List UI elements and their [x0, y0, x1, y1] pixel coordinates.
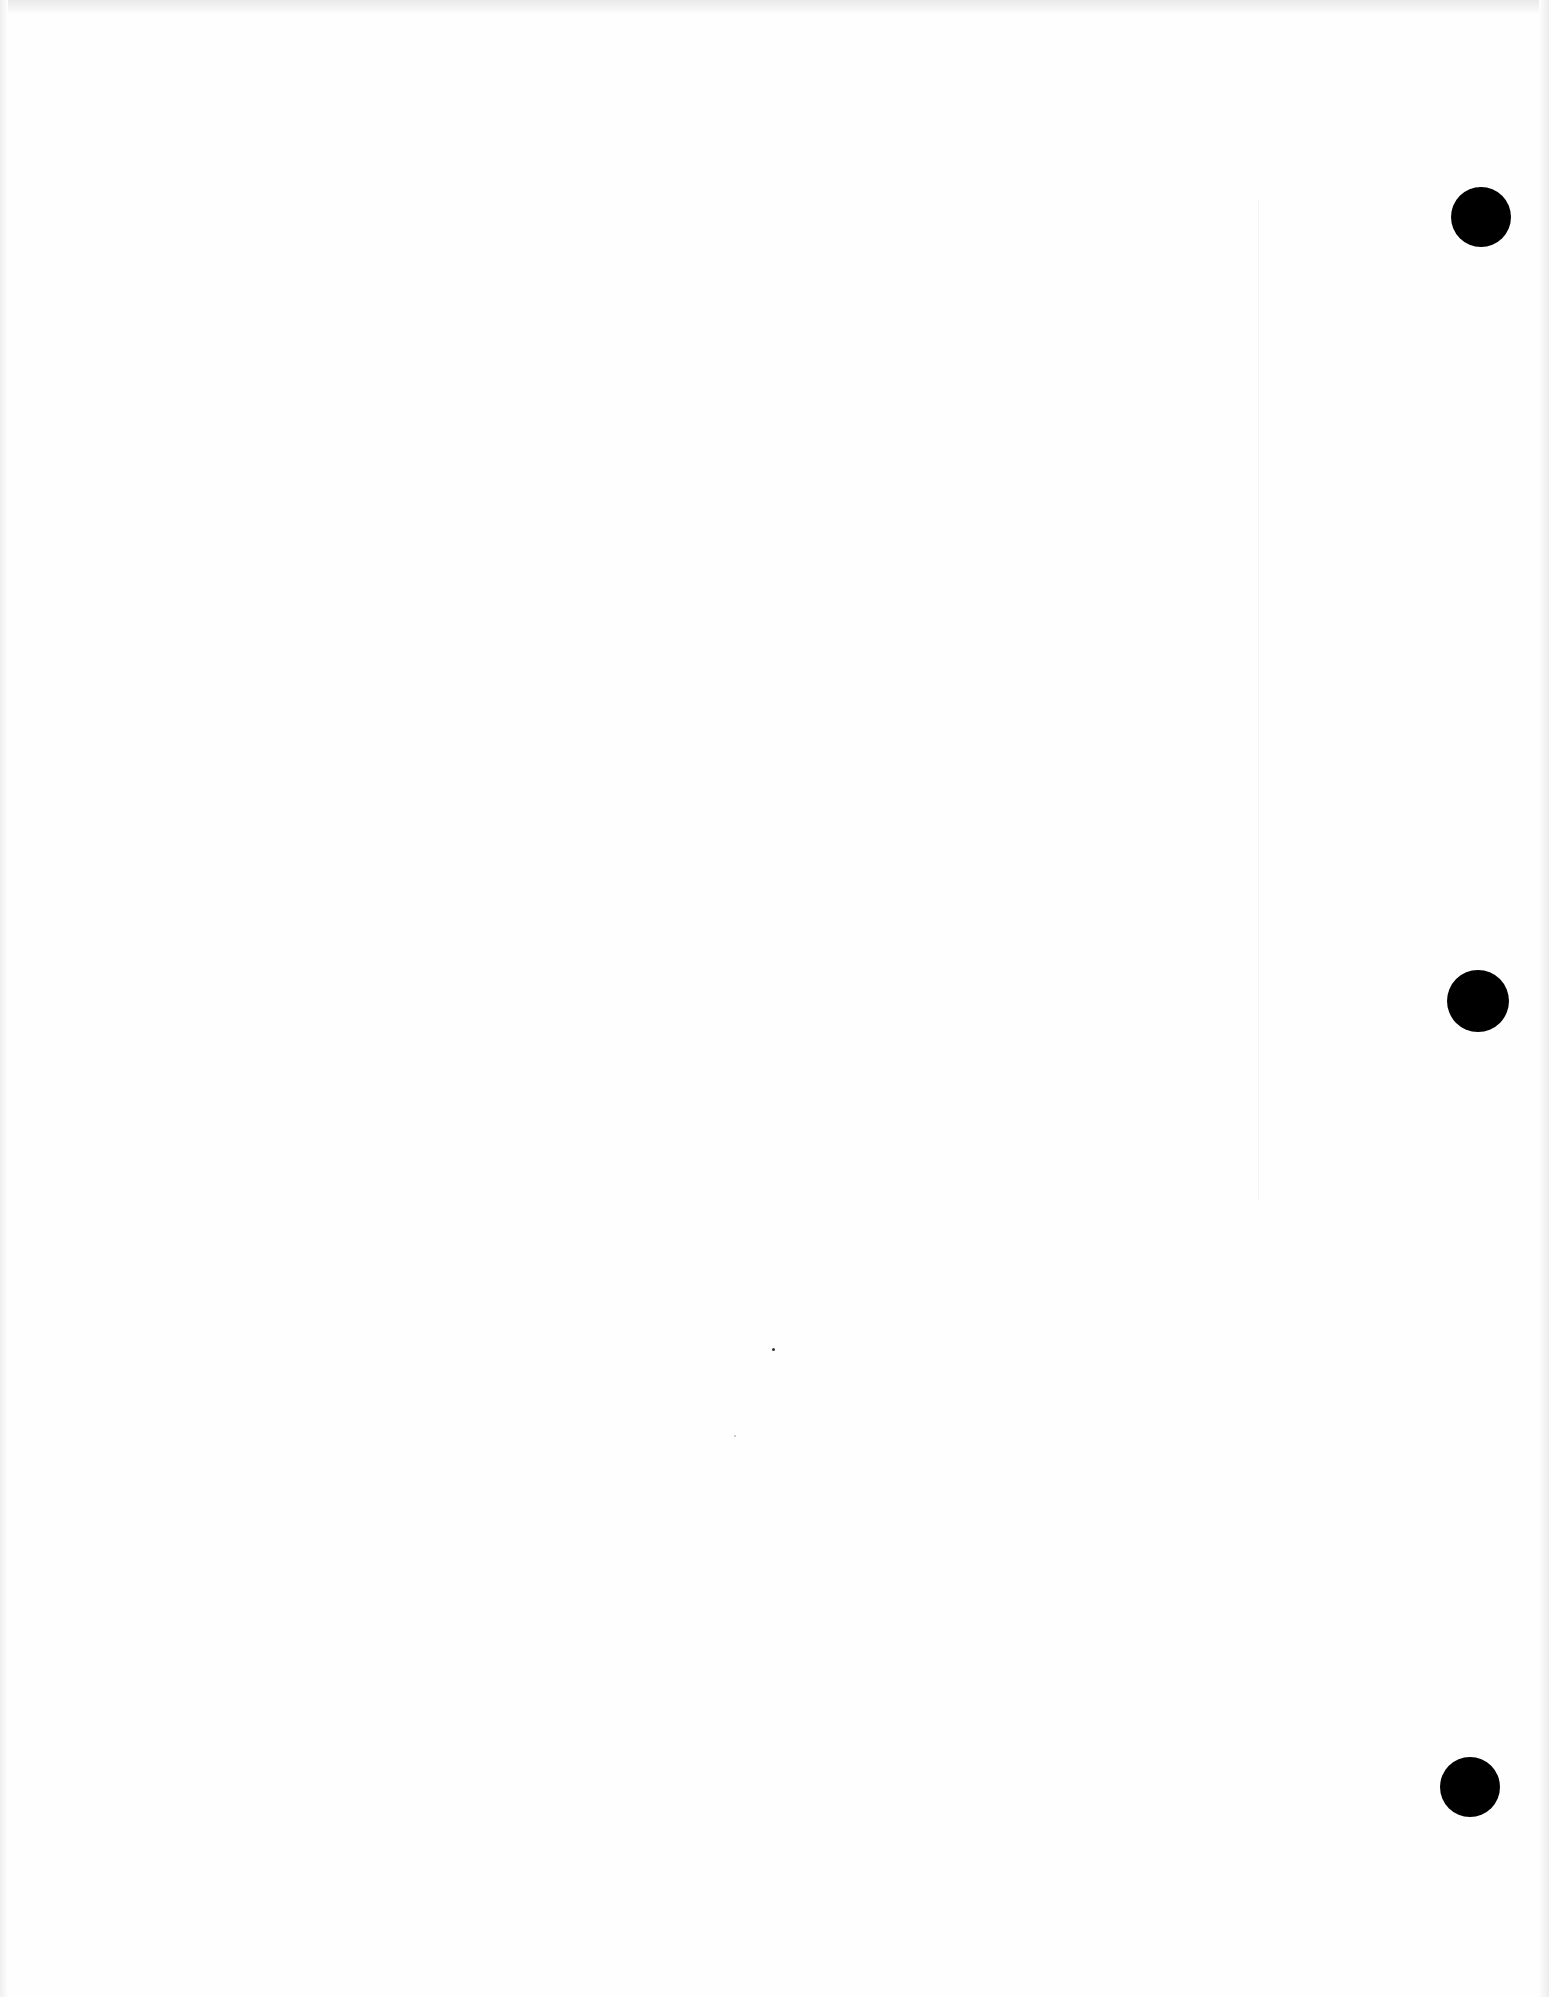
scan-top-edge-shadow: [0, 0, 1549, 14]
punch-hole-middle: [1447, 970, 1509, 1032]
punch-hole-top: [1451, 187, 1511, 247]
faint-fold-line: [1258, 200, 1259, 1200]
dust-speck: [772, 1348, 775, 1351]
punch-hole-bottom: [1440, 1757, 1500, 1817]
scan-right-edge-shadow: [1539, 0, 1549, 1997]
scanned-blank-page: [0, 0, 1549, 1997]
dust-speck: [734, 1435, 736, 1437]
scan-left-edge-shadow: [0, 0, 8, 1997]
